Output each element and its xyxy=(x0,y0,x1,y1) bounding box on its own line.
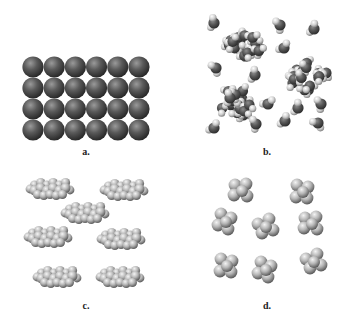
atom-sphere xyxy=(306,218,318,230)
atom-sphere xyxy=(58,190,67,199)
atom-sphere xyxy=(260,221,272,233)
atom-sphere xyxy=(128,56,149,77)
chain-molecule xyxy=(33,266,82,288)
atom-sphere xyxy=(128,77,149,98)
water-molecule xyxy=(207,14,220,31)
water-molecule xyxy=(309,117,324,131)
chain-molecule xyxy=(61,202,110,224)
hydrogen-atom xyxy=(225,89,233,97)
panel-label-b: b. xyxy=(263,146,271,157)
atom-sphere xyxy=(56,238,65,247)
chain-molecule xyxy=(26,178,75,200)
atom-sphere xyxy=(86,56,107,77)
hydrogen-atom xyxy=(209,14,217,22)
atom-sphere xyxy=(86,119,107,140)
panel-label-a: a. xyxy=(82,146,90,157)
atom-sphere xyxy=(297,186,309,198)
hydrogen-atom xyxy=(253,31,260,38)
hydrogen-atom xyxy=(218,110,225,117)
hydrogen-atom xyxy=(299,60,306,67)
hydrogen-atom xyxy=(309,118,317,126)
tetrahedral-molecule xyxy=(214,253,239,279)
hydrogen-atom xyxy=(272,18,280,26)
hydrogen-atom xyxy=(295,70,302,77)
panel-d-tetrahedral-molecules xyxy=(212,178,328,284)
atom-sphere xyxy=(128,98,149,119)
tetrahedral-molecule xyxy=(252,213,280,240)
hydrogen-atom xyxy=(242,83,249,90)
hydrogen-atom xyxy=(287,84,294,91)
atom-sphere xyxy=(107,56,128,77)
chain-molecule xyxy=(24,226,73,248)
atom-sphere xyxy=(65,98,86,119)
hydrogen-atom xyxy=(311,20,319,28)
atom-sphere xyxy=(65,56,86,77)
molecular-figure xyxy=(0,0,346,331)
atom-sphere xyxy=(44,98,65,119)
panel-a-solid-lattice xyxy=(22,56,149,140)
tetrahedral-molecule xyxy=(252,256,278,284)
atom-sphere xyxy=(22,98,43,119)
hydrogen-atom xyxy=(232,34,239,41)
atom-sphere xyxy=(221,260,233,272)
hydrogen-atom xyxy=(245,54,252,61)
water-molecule xyxy=(275,39,290,53)
water-molecule xyxy=(277,112,291,128)
hydrogen-atom xyxy=(296,85,303,92)
atom-sphere xyxy=(107,98,128,119)
atom-sphere xyxy=(129,240,138,249)
water-molecule xyxy=(314,96,327,113)
atom-sphere xyxy=(93,214,102,223)
hydrogen-atom xyxy=(212,119,220,127)
hydrogen-atom xyxy=(208,61,216,69)
hydrogen-atom xyxy=(268,96,276,104)
atom-sphere xyxy=(107,77,128,98)
atom-sphere xyxy=(22,119,43,140)
hydrogen-atom xyxy=(294,99,302,107)
atom-sphere xyxy=(107,119,128,140)
tetrahedral-molecule xyxy=(300,248,328,275)
hydrogen-atom xyxy=(249,116,257,124)
atom-sphere xyxy=(132,191,141,200)
atom-sphere xyxy=(65,77,86,98)
hydrogen-atom xyxy=(260,45,267,52)
panel-c-chain-molecules xyxy=(24,178,149,288)
chain-molecule xyxy=(97,228,146,250)
atom-sphere xyxy=(86,98,107,119)
water-molecule xyxy=(205,119,220,133)
water-molecule xyxy=(249,116,262,133)
water-cluster xyxy=(285,56,332,98)
water-molecule xyxy=(259,96,276,109)
atom-sphere xyxy=(128,278,137,287)
atom-sphere xyxy=(65,278,74,287)
atom-sphere xyxy=(22,77,43,98)
atom-sphere xyxy=(128,119,149,140)
atom-sphere xyxy=(308,256,320,268)
water-molecule xyxy=(208,61,222,76)
panel-label-d: d. xyxy=(263,300,271,311)
atom-sphere xyxy=(44,119,65,140)
hydrogen-atom xyxy=(251,66,259,74)
tetrahedral-molecule xyxy=(228,178,254,203)
atom-sphere xyxy=(65,119,86,140)
hydrogen-atom xyxy=(283,39,291,47)
water-molecule xyxy=(248,66,261,83)
atom-sphere xyxy=(44,77,65,98)
water-molecule xyxy=(272,18,285,34)
tetrahedral-molecule xyxy=(298,211,324,236)
hydrogen-atom xyxy=(239,42,246,49)
water-molecule xyxy=(290,99,303,116)
atom-sphere xyxy=(44,56,65,77)
atom-sphere xyxy=(260,264,272,276)
hydrogen-atom xyxy=(314,96,322,104)
hydrogen-atom xyxy=(303,86,310,93)
tetrahedral-molecule xyxy=(290,179,315,205)
atom-sphere xyxy=(236,185,248,197)
atom-sphere xyxy=(220,216,232,228)
chain-molecule xyxy=(100,179,149,201)
panel-label-c: c. xyxy=(83,300,90,311)
water-cluster xyxy=(221,28,267,62)
tetrahedral-molecule xyxy=(212,208,238,236)
panel-b-water-molecules xyxy=(205,14,332,134)
water-molecule xyxy=(306,20,320,36)
